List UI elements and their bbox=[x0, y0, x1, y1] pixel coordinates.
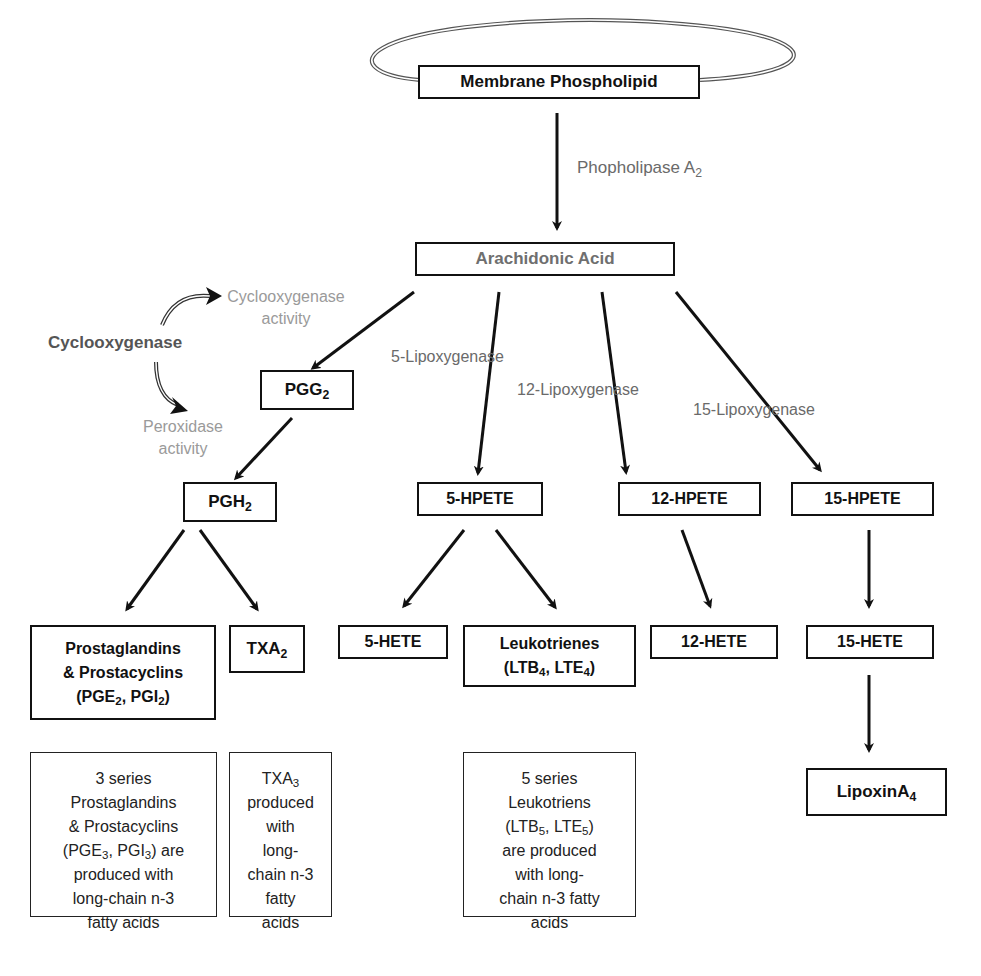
note-line: fatty acids bbox=[87, 911, 159, 935]
note-line: (PGE3, PGI3) are bbox=[63, 839, 184, 863]
activity-label-peroxidase: Peroxidase activity bbox=[124, 416, 242, 460]
note-line: produced bbox=[247, 791, 314, 815]
note-line: TXA3 bbox=[262, 767, 300, 791]
arrow-arachidonic-to-15hpete bbox=[676, 292, 820, 470]
node-label: PGH2 bbox=[208, 492, 252, 512]
note-line: acids bbox=[531, 911, 568, 935]
node-12-hpete: 12-HPETE bbox=[618, 482, 761, 516]
node-label-line2: (LTB4, LTE4) bbox=[504, 656, 595, 680]
activity-label-cyclooxygenase: Cyclooxygenase activity bbox=[222, 286, 350, 330]
node-15-hete: 15-HETE bbox=[806, 625, 934, 659]
node-txa2: TXA2 bbox=[229, 625, 305, 673]
node-label: TXA2 bbox=[247, 639, 288, 659]
arrow-pgg2-to-pgh2 bbox=[236, 418, 292, 478]
arrow-pgh2-to-txa2 bbox=[200, 530, 257, 609]
node-label: 12-HETE bbox=[681, 632, 747, 651]
arrow-5hpete-to-leukotrienes bbox=[496, 530, 555, 607]
note-line: Prostaglandins bbox=[71, 791, 177, 815]
node-label: Arachidonic Acid bbox=[475, 249, 614, 269]
note-line: are produced bbox=[502, 839, 596, 863]
node-label: 12-HPETE bbox=[651, 489, 727, 508]
node-label: 15-HPETE bbox=[824, 489, 900, 508]
node-label: Membrane Phospholipid bbox=[460, 72, 657, 92]
enzyme-label-cyclooxygenase: Cyclooxygenase bbox=[48, 333, 182, 353]
note-line: with long- bbox=[515, 863, 583, 887]
node-label-line3: (PGE2, PGI2) bbox=[76, 685, 170, 709]
node-leukotrienes: Leukotrienes (LTB4, LTE4) bbox=[463, 625, 636, 687]
note-line: & Prostacyclins bbox=[69, 815, 178, 839]
node-5-hete: 5-HETE bbox=[338, 625, 448, 659]
arrow-12hpete-to-12hete bbox=[682, 530, 710, 606]
arrow-arachidonic-to-5hpete bbox=[478, 292, 499, 473]
note-line: produced with bbox=[74, 863, 174, 887]
node-label: 15-HETE bbox=[837, 632, 903, 651]
note-3-series-prostaglandins: 3 series Prostaglandins & Prostacyclins … bbox=[30, 752, 217, 917]
node-5-hpete: 5-HPETE bbox=[417, 482, 543, 516]
note-line: long- bbox=[263, 839, 299, 863]
arrow-pgh2-to-prostaglandins bbox=[127, 530, 184, 609]
enzyme-label-phospholipase-a2: Phopholipase A2 bbox=[577, 158, 702, 178]
node-label: 5-HPETE bbox=[446, 489, 514, 508]
enzyme-label-12-lipoxygenase: 12-Lipoxygenase bbox=[517, 381, 639, 399]
enzyme-label-5-lipoxygenase: 5-Lipoxygenase bbox=[391, 348, 504, 366]
node-pgg2: PGG2 bbox=[260, 370, 354, 410]
note-5-series-leukotrienes: 5 series Leukotriens (LTB5, LTE5) are pr… bbox=[463, 752, 636, 917]
enzyme-label-15-lipoxygenase: 15-Lipoxygenase bbox=[693, 401, 815, 419]
node-label: 5-HETE bbox=[365, 632, 422, 651]
node-label: PGG2 bbox=[285, 380, 330, 400]
node-prostaglandins-prostacyclins: Prostaglandins & Prostacyclins (PGE2, PG… bbox=[30, 625, 216, 720]
note-line: chain n-3 bbox=[248, 863, 314, 887]
note-line: fatty bbox=[265, 887, 295, 911]
peroxidase-activity-curved-arrow-icon bbox=[156, 362, 188, 414]
node-15-hpete: 15-HPETE bbox=[791, 482, 934, 516]
node-label-line1: Leukotrienes bbox=[500, 632, 600, 656]
note-txa3: TXA3 produced with long- chain n-3 fatty… bbox=[229, 752, 332, 917]
arrow-5hpete-to-5hete bbox=[404, 530, 464, 606]
node-lipoxin-a4: LipoxinA4 bbox=[806, 768, 947, 816]
node-label-line2: & Prostacyclins bbox=[63, 661, 183, 685]
node-pgh2: PGH2 bbox=[183, 482, 277, 522]
cox-activity-curved-arrow-icon bbox=[162, 287, 222, 325]
node-membrane-phospholipid: Membrane Phospholipid bbox=[418, 65, 700, 99]
note-line: acids bbox=[262, 911, 299, 935]
node-label: LipoxinA4 bbox=[837, 782, 917, 802]
note-line: 5 series bbox=[521, 767, 577, 791]
node-label-line1: Prostaglandins bbox=[65, 637, 181, 661]
note-line: with bbox=[266, 815, 294, 839]
note-line: Leukotriens bbox=[508, 791, 591, 815]
note-line: (LTB5, LTE5) bbox=[505, 815, 594, 839]
node-12-hete: 12-HETE bbox=[650, 625, 778, 659]
node-arachidonic-acid: Arachidonic Acid bbox=[415, 242, 675, 276]
note-line: chain n-3 fatty bbox=[499, 887, 600, 911]
note-line: 3 series bbox=[95, 767, 151, 791]
note-line: long-chain n-3 bbox=[73, 887, 174, 911]
